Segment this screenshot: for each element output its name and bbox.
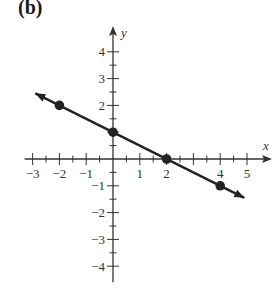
x-tick-label: 4 xyxy=(217,166,224,181)
line-arrow-left-icon xyxy=(35,93,46,101)
data-point xyxy=(162,154,172,164)
x-tick-label: −3 xyxy=(26,166,40,181)
data-point xyxy=(215,181,225,191)
y-tick-label: −1 xyxy=(91,178,105,193)
y-axis-label: y xyxy=(119,25,127,40)
data-point xyxy=(108,127,118,137)
y-tick-label: −3 xyxy=(91,232,105,247)
x-tick-label: 2 xyxy=(163,166,170,181)
x-axis-label: x xyxy=(262,138,269,153)
x-tick-label: 1 xyxy=(137,166,144,181)
y-tick-label: 2 xyxy=(99,98,106,113)
line-arrow-right-icon xyxy=(234,190,245,198)
x-tick-label: 5 xyxy=(244,166,251,181)
x-tick-label: −2 xyxy=(52,166,66,181)
graph-line xyxy=(35,93,244,198)
y-tick-label: −4 xyxy=(91,259,105,274)
y-tick-label: 4 xyxy=(99,44,106,59)
data-point xyxy=(55,101,65,111)
y-tick-label: −2 xyxy=(91,205,105,220)
y-tick-label: 3 xyxy=(99,71,106,86)
coordinate-plane: −3−2−11245432−1−2−3−4xy xyxy=(0,0,280,305)
